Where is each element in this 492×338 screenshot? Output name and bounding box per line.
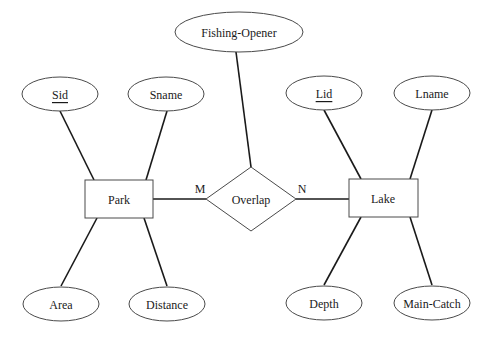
- edge-park-area: [61, 218, 97, 286]
- edge-park-sname: [146, 111, 167, 180]
- attribute-main-catch-label: Main-Catch: [403, 297, 460, 311]
- relationship-overlap: Overlap: [206, 167, 296, 231]
- attribute-depth: Depth: [286, 286, 362, 320]
- attribute-sname-label: Sname: [150, 88, 183, 102]
- entity-lake: Lake: [349, 179, 418, 217]
- attribute-depth-label: Depth: [309, 297, 338, 311]
- attribute-sid-label: Sid: [52, 88, 68, 102]
- attribute-main-catch: Main-Catch: [394, 286, 470, 320]
- attribute-area-label: Area: [49, 298, 73, 312]
- cardinality-m: M: [195, 182, 206, 196]
- edge-park-distance: [144, 218, 167, 286]
- attribute-distance-label: Distance: [146, 298, 188, 312]
- er-diagram-canvas: Fishing-Opener Sid Sname Area Distance L…: [0, 0, 492, 338]
- attribute-lname: Lname: [394, 76, 470, 110]
- attribute-distance: Distance: [129, 287, 205, 321]
- edge-lake-lid: [324, 110, 361, 179]
- entity-park-label: Park: [108, 193, 130, 207]
- edge-lake-lname: [410, 110, 432, 179]
- attribute-sname: Sname: [128, 77, 204, 111]
- attribute-lname-label: Lname: [415, 87, 448, 101]
- edge-park-sid: [60, 111, 94, 180]
- edge-lake-main-catch: [410, 217, 432, 285]
- attribute-lid-label: Lid: [316, 87, 333, 101]
- attribute-fishing-opener-label: Fishing-Opener: [201, 26, 276, 40]
- cardinality-n: N: [298, 182, 307, 196]
- attribute-lid: Lid: [286, 76, 362, 110]
- attribute-sid: Sid: [22, 77, 98, 111]
- attribute-area: Area: [23, 287, 99, 321]
- entity-lake-label: Lake: [371, 192, 395, 206]
- edge-lake-depth: [324, 217, 361, 285]
- relationship-overlap-label: Overlap: [232, 193, 271, 207]
- edges: [60, 52, 432, 286]
- edge-overlap-fishing-opener: [236, 52, 251, 167]
- entity-park: Park: [85, 180, 153, 218]
- attribute-fishing-opener: Fishing-Opener: [175, 12, 303, 52]
